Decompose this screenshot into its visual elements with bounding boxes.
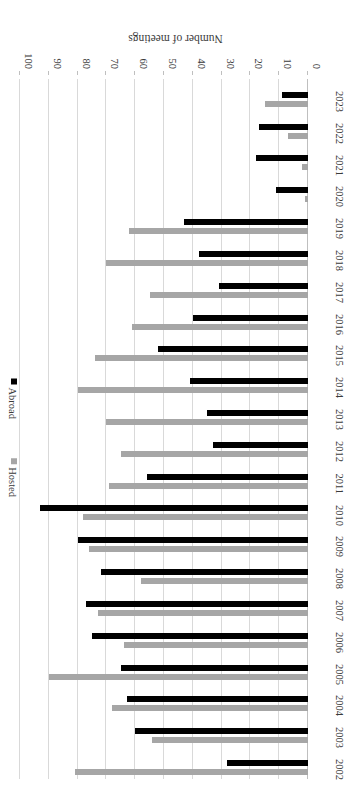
category-tick-label-2010: 2010 bbox=[310, 505, 344, 526]
bar-hosted-2012 bbox=[121, 451, 308, 457]
category-tick-label-2008: 2008 bbox=[310, 568, 344, 589]
bar-abroad-2011 bbox=[147, 474, 308, 480]
value-tick bbox=[105, 71, 106, 75]
value-tick bbox=[221, 71, 222, 75]
bar-group bbox=[20, 270, 308, 302]
bar-hosted-2005 bbox=[49, 674, 308, 680]
bar-hosted-2022 bbox=[288, 133, 308, 139]
category-tick-label-2018: 2018 bbox=[310, 250, 344, 271]
value-tick-label-100: 100 bbox=[7, 53, 33, 69]
value-tick-label-40: 40 bbox=[180, 59, 206, 70]
value-tick bbox=[134, 71, 135, 75]
category-tick-label-2006: 2006 bbox=[310, 632, 344, 653]
value-tick-label-80: 80 bbox=[65, 59, 91, 70]
bar-group bbox=[20, 79, 308, 111]
value-tick bbox=[249, 71, 250, 75]
bar-chart-figure: 0102030405060708090100 Number of meeting… bbox=[0, 0, 351, 797]
bar-group bbox=[20, 620, 308, 652]
legend-square-marker bbox=[11, 379, 17, 385]
bar-group bbox=[20, 747, 308, 779]
category-tick-label-2013: 2013 bbox=[310, 409, 344, 430]
bar-group bbox=[20, 397, 308, 429]
category-tick-label-2015: 2015 bbox=[310, 345, 344, 366]
category-tick-label-2011: 2011 bbox=[310, 473, 344, 494]
value-axis: 0102030405060708090100 bbox=[20, 45, 308, 75]
bar-hosted-2013 bbox=[106, 419, 308, 425]
bar-hosted-2014 bbox=[78, 387, 308, 393]
bar-abroad-2002 bbox=[227, 760, 308, 766]
value-tick-label-50: 50 bbox=[151, 59, 177, 70]
bar-group bbox=[20, 174, 308, 206]
value-tick bbox=[307, 71, 308, 75]
bar-abroad-2008 bbox=[101, 569, 308, 575]
category-tick-label-2005: 2005 bbox=[310, 664, 344, 685]
bar-abroad-2022 bbox=[259, 124, 308, 130]
legend-item-abroad: Abroad bbox=[0, 379, 17, 420]
value-tick-label-0: 0 bbox=[295, 64, 321, 69]
bar-group bbox=[20, 715, 308, 747]
bar-group bbox=[20, 556, 308, 588]
value-tick bbox=[163, 71, 164, 75]
bar-abroad-2003 bbox=[135, 728, 308, 734]
bar-hosted-2020 bbox=[305, 196, 308, 202]
chart-legend: HostedAbroad bbox=[0, 317, 17, 497]
bar-hosted-2006 bbox=[124, 642, 308, 648]
bar-abroad-2006 bbox=[92, 633, 308, 639]
value-tick-label-10: 10 bbox=[266, 59, 292, 70]
value-tick bbox=[19, 71, 20, 75]
category-tick-label-2007: 2007 bbox=[310, 600, 344, 621]
bar-abroad-2014 bbox=[190, 378, 308, 384]
category-tick-label-2019: 2019 bbox=[310, 218, 344, 239]
category-tick-label-2017: 2017 bbox=[310, 282, 344, 303]
category-tick-label-2003: 2003 bbox=[310, 727, 344, 748]
bar-group bbox=[20, 588, 308, 620]
bar-abroad-2013 bbox=[207, 410, 308, 416]
legend-label: Abroad bbox=[7, 388, 18, 420]
bar-group bbox=[20, 302, 308, 334]
bar-hosted-2023 bbox=[265, 101, 308, 107]
bar-group bbox=[20, 684, 308, 716]
value-tick-label-30: 30 bbox=[209, 59, 235, 70]
bar-abroad-2019 bbox=[184, 219, 308, 225]
bar-group bbox=[20, 334, 308, 366]
legend-item-hosted: Hosted bbox=[0, 458, 17, 497]
bar-abroad-2012 bbox=[213, 442, 308, 448]
bar-hosted-2010 bbox=[83, 514, 308, 520]
bar-hosted-2007 bbox=[98, 610, 308, 616]
bar-hosted-2015 bbox=[95, 355, 308, 361]
bar-group bbox=[20, 365, 308, 397]
bar-group bbox=[20, 206, 308, 238]
value-tick-label-70: 70 bbox=[93, 59, 119, 70]
value-tick-label-20: 20 bbox=[237, 59, 263, 70]
bar-group bbox=[20, 111, 308, 143]
value-tick bbox=[192, 71, 193, 75]
bar-abroad-2020 bbox=[276, 187, 308, 193]
bar-group bbox=[20, 429, 308, 461]
value-tick-label-60: 60 bbox=[122, 59, 148, 70]
bar-group bbox=[20, 524, 308, 556]
category-tick-label-2002: 2002 bbox=[310, 759, 344, 780]
bar-hosted-2011 bbox=[109, 483, 308, 489]
bar-abroad-2004 bbox=[127, 696, 308, 702]
bar-hosted-2009 bbox=[89, 546, 308, 552]
value-tick bbox=[48, 71, 49, 75]
bar-hosted-2021 bbox=[302, 164, 308, 170]
bar-abroad-2009 bbox=[78, 537, 308, 543]
value-axis-title: Number of meetings bbox=[0, 33, 351, 45]
bar-hosted-2017 bbox=[150, 292, 308, 298]
bar-abroad-2007 bbox=[86, 601, 308, 607]
category-tick-label-2021: 2021 bbox=[310, 155, 344, 176]
category-tick-label-2014: 2014 bbox=[310, 377, 344, 398]
bar-abroad-2017 bbox=[219, 283, 308, 289]
bar-group bbox=[20, 493, 308, 525]
bar-abroad-2018 bbox=[199, 251, 308, 257]
bar-abroad-2023 bbox=[282, 92, 308, 98]
category-tick-label-2016: 2016 bbox=[310, 314, 344, 335]
value-tick-label-90: 90 bbox=[36, 59, 62, 70]
legend-label: Hosted bbox=[7, 467, 18, 497]
bar-abroad-2015 bbox=[158, 346, 308, 352]
plot-area bbox=[20, 79, 308, 779]
bar-group bbox=[20, 143, 308, 175]
bar-hosted-2019 bbox=[129, 228, 308, 234]
value-tick bbox=[77, 71, 78, 75]
